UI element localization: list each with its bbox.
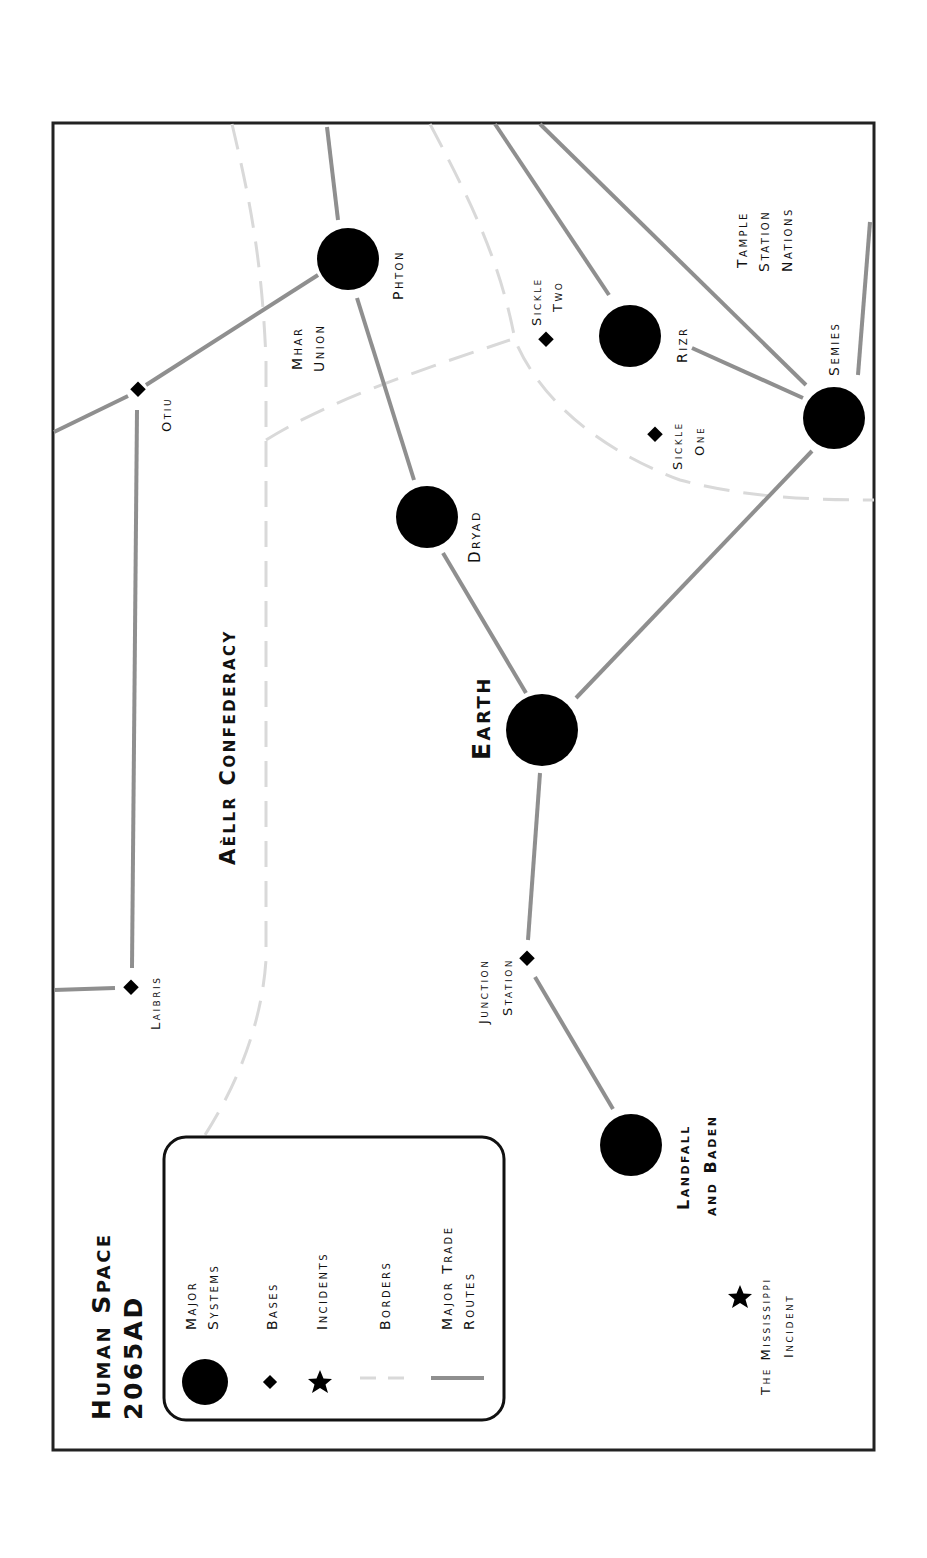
map-title-line1: Human Space [87, 1232, 116, 1420]
label-mississippi-1: The Mississippi [758, 1277, 773, 1396]
legend-label-incidents: Incidents [314, 1252, 330, 1330]
label-sickle-one-2: One [692, 426, 707, 456]
label-junction-1: Junction [476, 959, 491, 1025]
legend-system-icon [182, 1359, 228, 1405]
system-phton[interactable] [317, 228, 379, 290]
label-dryad: Dryad [466, 510, 484, 563]
system-dryad[interactable] [396, 486, 458, 548]
label-earth: Earth [467, 676, 496, 760]
region-mhar-union-1: Mhar [289, 327, 305, 370]
star-map: Human Space 2065AD Major Systems Bases I… [0, 0, 927, 1558]
legend-label-borders: Borders [377, 1261, 393, 1330]
region-mhar-union-2: Union [311, 323, 327, 372]
label-sickle-one-1: Sickle [670, 421, 685, 470]
system-semies[interactable] [803, 387, 865, 449]
label-laibris: Laibris [148, 976, 163, 1030]
label-sickle-two-2: Two [550, 281, 565, 313]
label-landfall-2: and Baden [701, 1115, 720, 1216]
label-rizr: Rizr [674, 327, 690, 363]
system-landfall-baden[interactable] [600, 1114, 662, 1176]
region-tample-2: Station [756, 210, 772, 272]
system-rizr[interactable] [599, 305, 661, 367]
legend-label-major-2: Systems [205, 1264, 221, 1330]
legend-label-bases: Bases [264, 1282, 280, 1330]
region-tample-3: Nations [779, 207, 795, 272]
label-landfall-1: Landfall [674, 1124, 693, 1210]
label-semies: Semies [826, 322, 842, 376]
label-mississippi-2: Incident [781, 1294, 796, 1358]
label-junction-2: Station [500, 958, 515, 1016]
region-aellr-confederacy: Aèllr Confederacy [216, 629, 240, 865]
label-sickle-two-1: Sickle [529, 277, 544, 326]
legend-label-major-1: Major [183, 1281, 199, 1330]
legend-label-routes-2: Routes [461, 1271, 477, 1330]
label-phton: Phton [390, 250, 406, 300]
map-title-line2: 2065AD [119, 1295, 148, 1420]
legend-label-routes-1: Major Trade [439, 1225, 455, 1330]
system-earth[interactable] [506, 694, 578, 766]
label-otiu: Otiu [159, 397, 174, 432]
region-tample-1: Tample [734, 211, 750, 269]
